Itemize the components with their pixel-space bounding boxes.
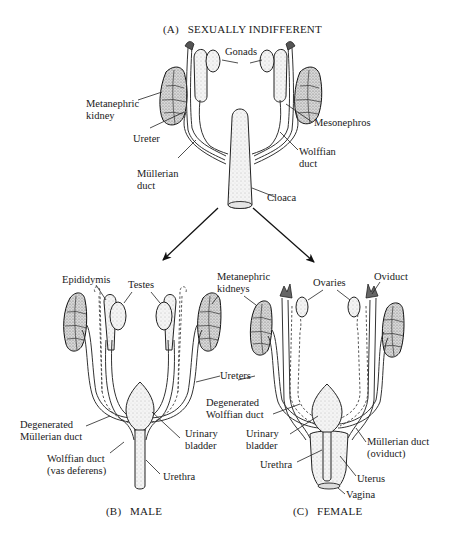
urinary-bladder-male [126,382,154,432]
label-ovaries: Ovaries [313,277,346,288]
testis-left [110,302,126,330]
arrow-to-male [163,208,218,260]
label-urinary-bladder-male-2: bladder [185,440,217,451]
arrow-to-female [253,208,314,262]
label-gonads: Gonads [225,46,257,57]
label-metanephric-kidney-1: Metanephric [86,98,139,109]
label-mullerian-duct-2: duct [137,180,155,191]
caption-female: (C) FEMALE [293,505,362,518]
diagram-canvas: (A) SEXUALLY INDIFFERENT [0,0,459,538]
metanephric-kidney-right [295,67,322,124]
vagina-opening [318,483,340,489]
label-mullerian-oviduct-2: (oviduct) [367,448,406,460]
label-degenerated-wolffian-1: Degenerated [206,397,260,408]
gonad-left [206,50,220,72]
kidney-female-left [250,301,272,355]
label-oviduct: Oviduct [374,271,408,282]
label-uterus: Uterus [357,473,385,484]
label-vagina: Vagina [346,489,375,500]
urethra-male [135,430,145,489]
cloaca-opening [228,202,252,209]
label-degenerated-mullerian-2: Müllerian duct [20,431,82,442]
caption-indifferent: (A) SEXUALLY INDIFFERENT [163,23,322,36]
panel-female: Ovaries Oviduct Degenerated Wolffian duc… [206,271,429,518]
label-testes: Testes [128,279,154,290]
urethra-female [323,432,331,481]
label-metanephric-kidney-2: kidney [86,110,115,121]
kidney-male-left [64,293,87,351]
testis-right [156,302,172,330]
label-degenerated-mullerian-1: Degenerated [20,419,74,430]
label-urinary-bladder-female-2: bladder [246,440,278,451]
kidney-male-right [198,293,221,351]
label-metanephric-kidneys-1: Metanephric [217,271,270,282]
cloaca [228,109,252,209]
label-mullerian-oviduct-1: Müllerian duct [367,436,429,447]
mesonephros-left [194,49,207,102]
label-wolffian-duct-1: Wolffian [299,146,337,157]
metanephric-kidney-left [160,67,187,125]
sexual-differentiation-diagram: (A) SEXUALLY INDIFFERENT [0,0,459,538]
label-urethra-male: Urethra [163,471,195,482]
label-urinary-bladder-male-1: Urinary [185,428,218,439]
label-metanephric-kidneys-2: kidneys [217,283,250,294]
label-urinary-bladder-female-1: Urinary [246,428,279,439]
ovary-left [296,297,308,317]
label-mesonephros: Mesonephros [314,117,371,128]
panel-male: Epididymis Testes Degenerated Müllerian … [20,274,221,518]
label-urethra-female: Urethra [260,459,292,470]
label-wolffian-duct-2: duct [299,158,317,169]
label-ureter: Ureter [133,133,160,144]
label-wolffian-vas-2: (vas deferens) [47,465,107,477]
label-cloaca: Cloaca [267,192,296,203]
label-degenerated-wolffian-2: Wolffian duct [206,409,264,420]
urinary-bladder-female [312,384,342,434]
gonad-right [260,50,274,72]
caption-male: (B) MALE [106,505,162,518]
label-ureters: Ureters [220,370,251,381]
mesonephros-right [274,49,287,102]
label-epididymis: Epididymis [62,274,110,285]
label-wolffian-vas-1: Wolffian duct [47,453,105,464]
label-mullerian-duct-1: Müllerian [137,168,179,179]
panel-indifferent: (A) SEXUALLY INDIFFERENT [86,23,371,209]
